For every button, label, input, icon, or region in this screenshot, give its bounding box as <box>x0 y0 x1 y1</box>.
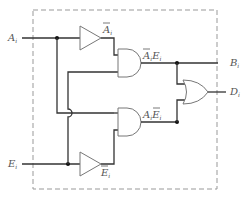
label-b-output: Bi <box>229 57 239 69</box>
wire-a-to-and-bottom <box>57 38 114 113</box>
label-and-bottom: AiEi <box>142 108 161 121</box>
label-e-input: Ei <box>7 158 17 170</box>
inverter-a <box>80 26 101 50</box>
and-gate-top <box>118 49 141 77</box>
svg-text:Ai: Ai <box>102 24 112 36</box>
wire-e-to-and-top <box>68 72 118 164</box>
label-abar: Ai <box>102 23 112 36</box>
svg-text:AiEi: AiEi <box>142 50 161 62</box>
svg-text:AiEi: AiEi <box>142 109 161 121</box>
label-d-output: Di <box>229 86 240 98</box>
label-and-top: AiEi <box>142 49 161 62</box>
wire-ebar-to-and-bottom <box>101 130 118 164</box>
and-gate-bottom <box>118 108 141 136</box>
label-ebar: Ei <box>100 166 110 179</box>
logic-circuit-diagram: Ai Ei Bi Di Ai Ei AiEi AiEi <box>0 0 248 199</box>
label-a-input: Ai <box>7 32 17 44</box>
or-gate <box>183 80 208 104</box>
svg-text:Ei: Ei <box>100 167 110 179</box>
wire-abar-to-and-top <box>101 38 118 55</box>
inverter-e <box>80 152 101 176</box>
